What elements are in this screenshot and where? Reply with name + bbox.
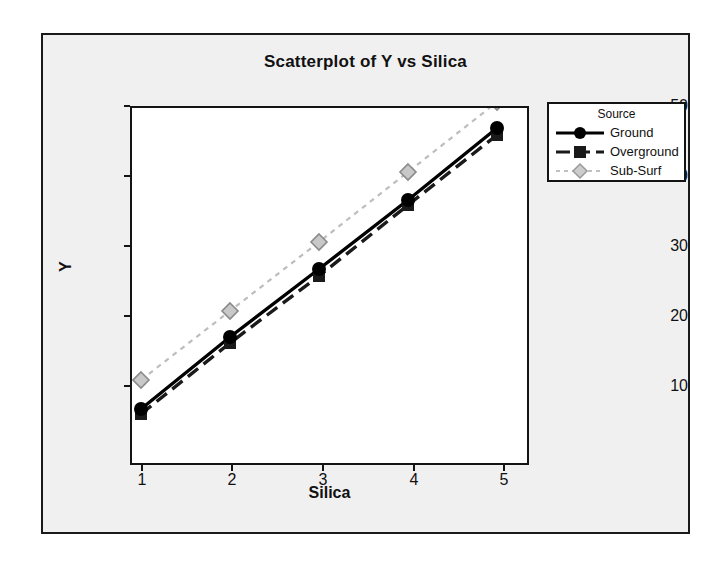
legend: Source Ground Overground Sub-Surf — [547, 102, 686, 182]
y-tick-label: 20 — [648, 307, 688, 325]
data-point-ground — [490, 121, 504, 135]
chart-title: Scatterplot of Y vs Silica — [43, 52, 688, 72]
x-axis-title: Silica — [130, 484, 529, 502]
data-point-ground — [401, 193, 415, 207]
legend-key-ground — [554, 124, 606, 142]
y-tick-label: 30 — [648, 237, 688, 255]
chart-figure: Scatterplot of Y vs Silica Y 50 40 30 20… — [41, 33, 690, 534]
legend-title: Source — [549, 107, 684, 121]
data-point-ground — [312, 262, 326, 276]
data-point-sub-surf — [489, 108, 505, 110]
legend-label-sub-surf: Sub-Surf — [610, 162, 661, 180]
data-point-sub-surf — [133, 372, 149, 388]
legend-label-ground: Ground — [610, 124, 653, 142]
legend-key-overground — [554, 143, 606, 161]
markers-sub-surf — [133, 108, 505, 388]
y-axis-title: Y — [57, 261, 75, 272]
data-point-ground — [223, 330, 237, 344]
data-point-ground — [134, 402, 148, 416]
legend-key-sub-surf — [554, 162, 606, 180]
legend-label-overground: Overground — [610, 143, 679, 161]
series-canvas — [132, 108, 527, 463]
plot-area — [130, 106, 529, 465]
y-tick-label: 10 — [648, 377, 688, 395]
